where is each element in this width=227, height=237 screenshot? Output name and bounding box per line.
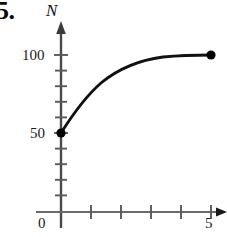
y-axis-arrowhead — [56, 21, 66, 34]
x-axis-arrowhead — [216, 208, 227, 217]
data-point-start — [56, 128, 65, 137]
plot-canvas — [0, 0, 227, 237]
figure-panel: 5. N 100 50 0 5 — [0, 0, 227, 237]
data-curve — [61, 55, 211, 133]
data-point-end — [206, 50, 215, 59]
